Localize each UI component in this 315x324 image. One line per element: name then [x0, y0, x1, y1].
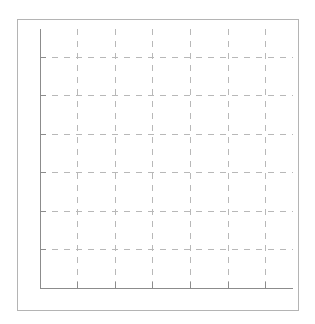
gridlines [40, 29, 293, 288]
chart-plot-area [0, 0, 315, 324]
